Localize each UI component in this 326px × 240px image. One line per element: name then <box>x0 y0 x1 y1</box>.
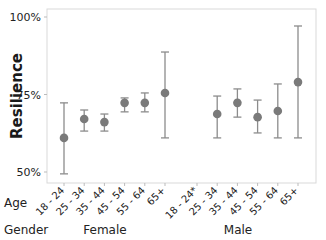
x-axis: 18 - 2425 - 3435 - 4445 - 5455 - 6465+Fe… <box>34 183 301 237</box>
mean-marker <box>100 118 109 127</box>
mean-marker <box>213 110 222 119</box>
mean-marker <box>274 107 283 116</box>
gender-group-label: Female <box>83 223 126 237</box>
y-tick-label: 50% <box>17 166 41 179</box>
x-tick-label: 65+ <box>278 185 301 208</box>
interval-plot: 100%75%50% 18 - 2425 - 3435 - 4445 - 545… <box>0 0 326 240</box>
x-tick-label: 65+ <box>145 185 168 208</box>
age-row-label: Age <box>4 196 27 210</box>
mean-marker <box>294 78 303 87</box>
mean-marker <box>233 99 242 108</box>
mean-marker <box>141 99 150 108</box>
mean-marker <box>80 115 89 124</box>
plot-frame <box>47 9 316 183</box>
mean-marker <box>253 113 262 122</box>
gender-row-label: Gender <box>4 223 48 237</box>
mean-marker <box>60 134 69 143</box>
y-tick-label: 100% <box>10 11 41 24</box>
y-axis-title: Resilience <box>8 53 26 139</box>
mean-marker <box>120 99 129 108</box>
gender-group-label: Male <box>224 223 252 237</box>
mean-marker <box>161 89 170 98</box>
